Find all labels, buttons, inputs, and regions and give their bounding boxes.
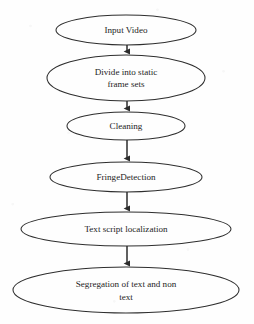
node-cleaning[interactable]: Cleaning (67, 112, 185, 140)
node-fringe-detection-label: FringeDetection (96, 172, 156, 182)
node-divide-into-static-frame-sets-label-line1: Divide into static (95, 67, 158, 77)
node-cleaning-label: Cleaning (110, 121, 143, 131)
node-input-video-label: Input Video (105, 25, 148, 35)
node-segregation-of-text-and-non-text[interactable]: Segregation of text and non text (13, 267, 239, 313)
node-segregation-of-text-and-non-text-label-line1: Segregation of text and non (76, 279, 177, 289)
node-text-script-localization-label: Text script localization (84, 224, 168, 234)
flowchart-svg: Input Video Divide into static frame set… (0, 0, 254, 324)
node-divide-into-static-frame-sets-label-line2: frame sets (107, 79, 145, 89)
node-segregation-of-text-and-non-text-label-line2: text (119, 292, 133, 302)
node-fringe-detection[interactable]: FringeDetection (50, 162, 202, 192)
node-divide-into-static-frame-sets[interactable]: Divide into static frame sets (47, 55, 205, 101)
node-divide-into-static-frame-sets-shape (47, 55, 205, 101)
node-text-script-localization[interactable]: Text script localization (21, 212, 231, 246)
node-input-video[interactable]: Input Video (56, 15, 196, 45)
flowchart-canvas: Input Video Divide into static frame set… (0, 0, 254, 324)
node-segregation-of-text-and-non-text-shape (13, 267, 239, 313)
